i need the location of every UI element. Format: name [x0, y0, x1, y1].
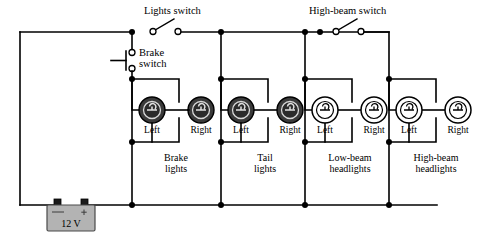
- lights-switch-symbol[interactable]: [129, 19, 389, 35]
- lamp-label-tail-left: Left: [223, 125, 259, 135]
- battery-label: 12 V: [47, 219, 95, 230]
- brake-switch-label-line1: Brake: [139, 47, 166, 58]
- lamp-label-brake-right: Right: [183, 125, 219, 135]
- lamp-label-low-beam-right: Right: [356, 125, 392, 135]
- high-beam-switch-contact-left: [333, 29, 339, 35]
- brake-switch-symbol[interactable]: [111, 32, 135, 205]
- lamp-brake-right: [188, 97, 214, 123]
- group-label-high-beam-line2: headlights: [398, 163, 474, 174]
- tail-lights-circuit: [218, 76, 303, 208]
- lamp-label-low-beam-left: Left: [307, 125, 343, 135]
- node-low-beam-return: [302, 202, 308, 208]
- brake-switch-contact-top: [129, 50, 135, 56]
- group-label-tail-lights-line1: Tail: [230, 152, 300, 163]
- group-label-brake-lights-line2: lights: [141, 163, 211, 174]
- brake-lights-circuit: [129, 76, 214, 208]
- wire-brake-left-lamp-in: [132, 79, 139, 110]
- lights-switch-contact-right: [175, 29, 181, 35]
- lamp-brake-left: [139, 97, 165, 123]
- node-tail-return: [218, 202, 224, 208]
- lamp-label-high-beam-right: Right: [440, 125, 476, 135]
- group-label-tail-lights-line2: lights: [230, 163, 300, 174]
- lamp-label-brake-left: Left: [134, 125, 170, 135]
- lamp-high-beam-right: [445, 97, 471, 123]
- group-label-brake-lights: Brake lights: [141, 152, 211, 174]
- node-low-beam-bus-top: [302, 29, 308, 35]
- node-brake-return: [129, 202, 135, 208]
- lamp-low-beam-left: [312, 97, 338, 123]
- high-beam-switch-blade: [338, 19, 357, 30]
- high-beam-switch-contact-right: [358, 29, 364, 35]
- lamp-high-beam-left: [396, 97, 422, 123]
- node-tail-bus-top: [218, 29, 224, 35]
- lights-switch-label: Lights switch: [144, 5, 201, 16]
- group-label-low-beam-line2: headlights: [312, 163, 388, 174]
- lights-switch-contact-left: [150, 29, 156, 35]
- high-beam-headlights-circuit: [386, 76, 471, 208]
- group-label-tail-lights: Tail lights: [230, 152, 300, 174]
- brake-switch-label: Brake switch: [139, 47, 166, 70]
- group-label-high-beam-headlights: High-beam headlights: [398, 152, 474, 174]
- lamp-tail-right: [277, 97, 303, 123]
- low-beam-headlights-circuit: [302, 76, 387, 208]
- circuit-diagram: Lights switch Brake switch High-beam swi…: [0, 0, 488, 236]
- circuit-schematic-svg: [0, 0, 488, 236]
- lamp-label-high-beam-left: Left: [391, 125, 427, 135]
- wire-high-beam-left-lamp-in: [389, 79, 396, 110]
- wire-low-beam-left-lamp-in: [305, 79, 312, 110]
- group-label-brake-lights-line1: Brake: [141, 152, 211, 163]
- lamp-tail-left: [228, 97, 254, 123]
- group-label-low-beam-line1: Low-beam: [312, 152, 388, 163]
- lamp-low-beam-right: [361, 97, 387, 123]
- wire-tail-left-lamp-in: [221, 79, 228, 110]
- brake-switch-label-line2: switch: [139, 58, 166, 69]
- lamp-label-tail-right: Right: [272, 125, 308, 135]
- group-label-high-beam-line1: High-beam: [398, 152, 474, 163]
- lights-switch-blade: [155, 19, 174, 30]
- node-high-beam-return: [386, 202, 392, 208]
- node-high-beam-switch-in: [317, 29, 323, 35]
- group-label-low-beam-headlights: Low-beam headlights: [312, 152, 388, 174]
- high-beam-switch-label: High-beam switch: [309, 5, 386, 16]
